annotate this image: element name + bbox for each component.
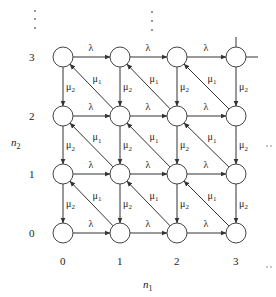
y-tick-label: 0 [29, 227, 35, 239]
lambda-label: λ [89, 218, 94, 229]
mu1-label: μ1 [150, 190, 159, 204]
lambda-label: λ [204, 101, 209, 112]
y-tick-label: 1 [29, 168, 35, 180]
mu1-label: μ1 [150, 73, 159, 87]
y-tick-label: 3 [29, 51, 35, 63]
y-tick-label: 2 [29, 110, 35, 122]
lambda-label: λ [146, 101, 151, 112]
state-node [110, 106, 130, 126]
state-node [167, 164, 187, 184]
mu1-label: μ1 [208, 190, 217, 204]
ellipsis-vertical-left-icon [34, 10, 36, 29]
x-tick-label: 0 [60, 255, 66, 267]
ellipsis-horizontal-bottom-icon [266, 266, 271, 267]
state-node [167, 47, 187, 67]
mu2-label: μ2 [239, 81, 248, 95]
lambda-label: λ [146, 159, 151, 170]
mu1-label: μ1 [93, 131, 102, 145]
state-node [53, 223, 73, 243]
state-node [167, 106, 187, 126]
mu1-label: μ1 [150, 131, 159, 145]
lambda-label: λ [146, 42, 151, 53]
mu2-label: μ2 [180, 198, 189, 212]
lambda-label: λ [204, 159, 209, 170]
x-axis-title: n1 [143, 278, 153, 293]
mu1-label: μ1 [93, 73, 102, 87]
state-node [110, 164, 130, 184]
mu2-label: μ2 [66, 198, 75, 212]
mu1-label: μ1 [93, 190, 102, 204]
state-node [53, 106, 73, 126]
state-transition-diagram: λλλλμ2μ1λμ2μ1λμ2μ1μ2λμ2μ1λμ2μ1λμ2μ1μ2λμ2… [0, 0, 276, 297]
mu2-label: μ2 [66, 81, 75, 95]
state-node [226, 223, 246, 243]
y-axis-title: n2 [11, 136, 21, 151]
state-node [53, 164, 73, 184]
mu1-label: μ1 [208, 73, 217, 87]
mu2-label: μ2 [239, 198, 248, 212]
state-node [226, 47, 246, 67]
x-tick-label: 3 [233, 255, 239, 267]
ellipsis-horizontal-mid-icon [266, 145, 271, 146]
lambda-label: λ [89, 42, 94, 53]
state-node [167, 223, 187, 243]
rate-labels: λλλλμ2μ1λμ2μ1λμ2μ1μ2λμ2μ1λμ2μ1λμ2μ1μ2λμ2… [66, 42, 248, 229]
lambda-label: λ [204, 218, 209, 229]
x-tick-label: 1 [117, 255, 123, 267]
lambda-label: λ [89, 159, 94, 170]
state-node [226, 164, 246, 184]
ellipsis-vertical-mid-icon [151, 11, 153, 31]
state-node [226, 106, 246, 126]
state-node [110, 223, 130, 243]
mu2-label: μ2 [123, 198, 132, 212]
lambda-label: λ [89, 101, 94, 112]
mu2-label: μ2 [66, 139, 75, 153]
mu2-label: μ2 [180, 139, 189, 153]
mu2-label: μ2 [239, 139, 248, 153]
mu2-label: μ2 [180, 81, 189, 95]
state-node [53, 47, 73, 67]
mu2-label: μ2 [123, 139, 132, 153]
x-tick-label: 2 [174, 255, 180, 267]
state-node [110, 47, 130, 67]
lambda-label: λ [204, 42, 209, 53]
mu1-label: μ1 [208, 131, 217, 145]
mu2-label: μ2 [123, 81, 132, 95]
lambda-label: λ [146, 218, 151, 229]
